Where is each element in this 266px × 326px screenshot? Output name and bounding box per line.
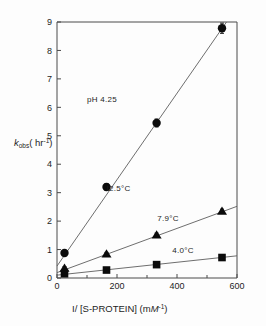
y-tick-label: 8 bbox=[47, 46, 52, 56]
kinetics-scatter-plot: 0123456789 0200400600 pH 4.25I2.5°C7.9°C… bbox=[0, 0, 266, 326]
svg-text:I/ [S-PROTEIN] (mM-1): I/ [S-PROTEIN] (mM-1) bbox=[72, 303, 168, 314]
series-label-12p5c: I2.5°C bbox=[106, 184, 130, 193]
y-tick-label: 1 bbox=[47, 245, 52, 255]
series-label-7p9c: 7.9°C bbox=[157, 214, 179, 223]
plot-background bbox=[0, 0, 266, 326]
y-tick-label: 6 bbox=[47, 103, 52, 113]
y-tick-label: 0 bbox=[47, 273, 52, 283]
y-tick-label: 7 bbox=[47, 74, 52, 84]
x-tick-label: 0 bbox=[54, 281, 59, 291]
data-point-square bbox=[153, 261, 161, 269]
x-tick-label: 400 bbox=[169, 281, 184, 291]
ph-annotation: pH 4.25 bbox=[87, 95, 117, 104]
x-tick-label: 200 bbox=[109, 281, 124, 291]
y-tick-label: 4 bbox=[47, 159, 52, 169]
x-axis-title: I/ [S-PROTEIN] (mM-1) bbox=[72, 303, 168, 314]
data-point-square bbox=[61, 270, 69, 278]
y-tick-label: 3 bbox=[47, 188, 52, 198]
figure-container: 0123456789 0200400600 pH 4.25I2.5°C7.9°C… bbox=[0, 0, 266, 326]
data-point-square bbox=[218, 254, 226, 262]
data-point-circle bbox=[218, 24, 226, 32]
y-tick-label: 2 bbox=[47, 216, 52, 226]
data-point-circle bbox=[152, 119, 160, 127]
data-point-square bbox=[103, 266, 111, 274]
y-tick-label: 9 bbox=[47, 17, 52, 27]
data-point-circle bbox=[60, 249, 68, 257]
x-tick-label: 600 bbox=[229, 281, 244, 291]
series-label-4p0c: 4.0°C bbox=[172, 246, 194, 255]
